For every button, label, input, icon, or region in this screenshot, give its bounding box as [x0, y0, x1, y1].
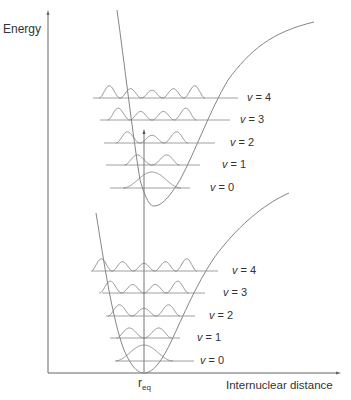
upper-wavefunction — [108, 108, 197, 120]
energy-axis-label: Energy — [3, 23, 41, 35]
upper-level-label: v = 2 — [230, 137, 254, 148]
lower-level-label: v = 1 — [197, 332, 221, 343]
upper-level-label: v = 1 — [222, 159, 246, 170]
upper-wavefunction — [116, 132, 188, 143]
transition-arrow — [143, 129, 146, 372]
r-eq-label: req — [138, 377, 151, 392]
upper-level-label: v = 4 — [247, 92, 271, 103]
lower-potential-curve — [96, 193, 289, 373]
distance-axis-label: Internuclear distance — [226, 380, 333, 392]
lower-level-label: v = 3 — [223, 287, 247, 298]
lower-level-label: v = 0 — [200, 355, 224, 366]
upper-wavefunction — [123, 172, 181, 188]
upper-potential-curve — [117, 10, 314, 206]
lower-level-label: v = 2 — [209, 310, 233, 321]
upper-wavefunction — [99, 86, 205, 98]
y-axis-arrowhead — [47, 10, 50, 15]
upper-wavefunction — [125, 155, 180, 165]
potential-energy-diagram — [0, 0, 351, 400]
lower-level-label: v = 4 — [232, 265, 256, 276]
upper-level-label: v = 0 — [210, 182, 234, 193]
axes — [47, 10, 342, 375]
upper-level-label: v = 3 — [240, 114, 264, 125]
x-axis-arrowhead — [336, 372, 341, 375]
